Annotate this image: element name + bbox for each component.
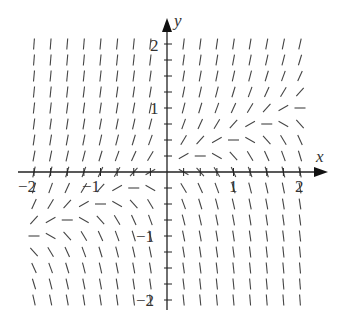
slope-segment	[231, 103, 236, 113]
slope-segment	[249, 39, 251, 50]
slope-segment	[112, 185, 122, 190]
tick-labels: −2 −1 1 2 2 1 −1 −2	[18, 36, 304, 310]
slope-segment	[100, 295, 102, 306]
slope-segment	[250, 295, 251, 306]
slope-segment	[133, 263, 135, 274]
slope-segment	[49, 279, 52, 290]
slope-segment	[233, 247, 234, 258]
slope-segment	[233, 279, 234, 290]
slope-segment	[215, 183, 219, 193]
slope-segment	[116, 263, 118, 274]
slope-segment	[216, 55, 218, 66]
slope-segment	[133, 119, 135, 130]
slope-segment	[216, 71, 218, 82]
slope-segment	[83, 55, 84, 66]
slope-segment	[34, 39, 35, 50]
slope-segment	[32, 199, 37, 209]
slope-segment	[282, 39, 284, 50]
slope-segment	[99, 263, 101, 274]
slope-segment	[83, 103, 85, 114]
x-axis-arrow-icon	[314, 167, 328, 177]
slope-segment	[100, 87, 101, 98]
slope-segment	[83, 279, 85, 290]
slope-segment	[49, 263, 53, 273]
slope-segment	[245, 121, 255, 126]
slope-segment	[83, 119, 85, 130]
slope-segment	[100, 119, 102, 130]
slope-segment	[216, 263, 217, 274]
slope-segment	[249, 71, 252, 82]
slope-segment	[233, 231, 235, 242]
slope-segment	[50, 103, 51, 114]
slope-segment	[233, 263, 234, 274]
slope-segment	[46, 233, 56, 238]
slope-segment	[130, 200, 137, 208]
slope-segment	[67, 71, 68, 82]
slope-segment	[233, 39, 235, 50]
slope-segment	[249, 215, 251, 226]
slope-segment	[266, 55, 268, 66]
slope-segment	[216, 215, 218, 226]
slope-segment	[266, 279, 267, 290]
slope-segment	[296, 120, 303, 128]
slope-segment	[114, 215, 120, 224]
slope-segment	[249, 231, 251, 242]
slope-segment	[199, 215, 201, 226]
slope-segment	[83, 135, 85, 146]
slope-segment	[182, 103, 185, 114]
slope-segment	[283, 247, 284, 258]
slope-segment	[116, 103, 118, 114]
slope-segment	[298, 55, 301, 66]
slope-segment	[263, 104, 270, 112]
slope-segment	[79, 201, 89, 206]
slope-segment	[34, 55, 35, 66]
y-tick-label-neg1: −1	[136, 227, 154, 246]
slope-segment	[266, 263, 267, 274]
slope-segment	[117, 55, 118, 66]
slope-segment	[249, 183, 252, 194]
slope-segment	[282, 151, 286, 161]
slope-segment	[116, 71, 117, 82]
slope-segment	[48, 247, 54, 256]
slope-segment	[249, 247, 250, 258]
slope-segment	[300, 279, 301, 290]
slope-segment	[265, 71, 268, 82]
slope-segment	[233, 55, 235, 66]
slope-segment	[99, 135, 101, 146]
slope-segment	[48, 199, 54, 208]
slope-segment	[149, 247, 151, 258]
slope-segment	[64, 200, 71, 208]
slope-segment	[65, 183, 70, 193]
slope-segment	[67, 103, 68, 114]
slope-segment	[247, 151, 253, 160]
slope-segment	[112, 201, 122, 206]
slope-segment	[300, 263, 301, 274]
slope-segment	[64, 232, 71, 240]
slope-segment	[200, 279, 201, 290]
slope-segment	[132, 231, 135, 242]
slope-segment	[131, 151, 136, 161]
slope-segment	[100, 39, 101, 50]
x-tick-label-2: 2	[295, 177, 304, 196]
slope-segment	[282, 55, 285, 66]
slope-segment	[149, 135, 153, 145]
slope-segment	[116, 295, 118, 306]
slope-segment	[299, 231, 300, 242]
slope-segment	[266, 183, 268, 194]
slope-segment	[182, 119, 186, 129]
slope-segment	[33, 119, 34, 130]
slope-segment	[66, 295, 68, 306]
slope-segment	[50, 151, 52, 162]
slope-segment	[298, 135, 303, 145]
slope-segment	[299, 199, 301, 210]
slope-segment	[266, 199, 268, 210]
slope-segment	[299, 39, 301, 50]
slope-segment	[232, 199, 234, 210]
slope-segment	[214, 119, 220, 128]
slope-segment	[212, 153, 222, 158]
slope-field-diagram: x y −2 −1 1 2 2 1 −1 −2	[0, 0, 346, 319]
slope-segment	[199, 231, 201, 242]
slope-segment	[33, 295, 35, 306]
slope-segment	[264, 151, 269, 161]
slope-segment	[199, 55, 201, 66]
